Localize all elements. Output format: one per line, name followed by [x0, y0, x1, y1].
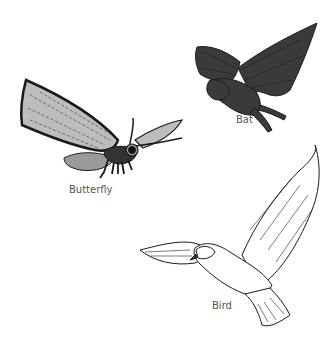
- flying-animals-illustration: Butterfly Bat Bird: [0, 0, 335, 347]
- bat-illustration: [196, 23, 317, 132]
- bat-label: Bat: [236, 114, 253, 125]
- butterfly-label: Butterfly: [69, 184, 113, 195]
- illustration-svg: [0, 0, 335, 347]
- bird-label: Bird: [212, 300, 232, 311]
- bird-illustration: [140, 145, 319, 326]
- butterfly-illustration: [21, 80, 182, 178]
